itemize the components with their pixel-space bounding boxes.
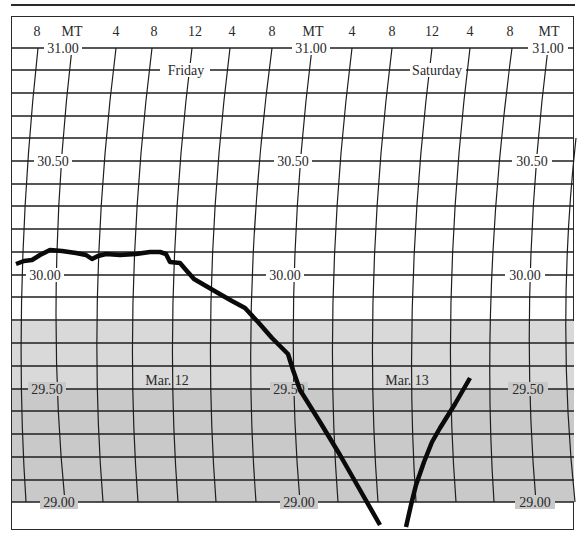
date-label-mar-12: Mar. 12: [145, 373, 189, 388]
x-tick-label: 8: [269, 24, 276, 39]
x-tick-label: 12: [188, 24, 202, 39]
y-tick-label-30-50: 30.50: [37, 154, 69, 169]
y-tick-label-30-00: 30.00: [509, 268, 541, 283]
x-tick-label: MT: [303, 24, 324, 39]
x-tick-label: 4: [113, 24, 120, 39]
x-tick-label: 8: [389, 24, 396, 39]
x-tick-label: MT: [62, 24, 83, 39]
y-tick-label-30-00: 30.00: [269, 268, 301, 283]
y-tick-label-29-50: 29.50: [512, 382, 544, 397]
y-tick-label-30-00: 30.00: [29, 268, 61, 283]
day-label-friday: Friday: [168, 63, 205, 78]
y-tick-label-30-50: 30.50: [277, 154, 309, 169]
x-tick-label: 4: [229, 24, 236, 39]
x-tick-label: MT: [539, 24, 560, 39]
day-label-saturday: Saturday: [412, 63, 462, 78]
x-tick-label: 4: [467, 24, 474, 39]
x-tick-label: 4: [349, 24, 356, 39]
date-label-mar-13: Mar. 13: [385, 373, 429, 388]
x-tick-label: 8: [34, 24, 41, 39]
y-tick-label-31: 31.00: [532, 41, 564, 56]
y-tick-label-29-00: 29.00: [283, 495, 315, 510]
y-tick-label-30-50: 30.50: [516, 154, 548, 169]
y-tick-label-29-00: 29.00: [43, 495, 75, 510]
barograph-chart: 8 MT 4 8 12 4 8 MT 4 8 12 4 8 MT Friday …: [0, 0, 578, 536]
y-tick-label-29-50: 29.50: [31, 382, 63, 397]
x-tick-labels: 8 MT 4 8 12 4 8 MT 4 8 12 4 8 MT: [34, 24, 560, 39]
x-tick-label: 12: [425, 24, 439, 39]
y-tick-label-31: 31.00: [47, 41, 79, 56]
y-tick-label-31: 31.00: [295, 41, 327, 56]
y-tick-label-29-00: 29.00: [519, 495, 551, 510]
x-tick-label: 8: [507, 24, 514, 39]
x-tick-label: 8: [151, 24, 158, 39]
